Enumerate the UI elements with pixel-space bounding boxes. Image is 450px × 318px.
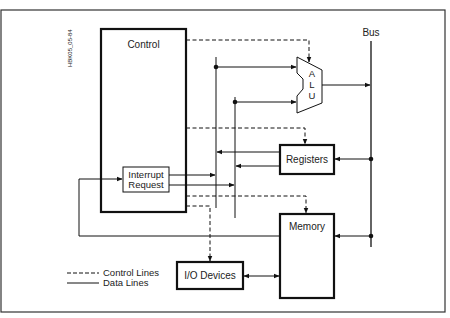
- alu-block: A L U: [297, 57, 322, 113]
- registers-block: Registers: [280, 145, 334, 174]
- memory-label: Memory: [289, 221, 325, 232]
- registers-label: Registers: [286, 154, 328, 165]
- alu-letter-u: U: [309, 90, 316, 101]
- interrupt-request-block: Interrupt Request: [123, 167, 169, 192]
- figure-id-label: HBK05_05-84: [67, 29, 73, 67]
- interrupt-label-line2: Request: [128, 179, 164, 190]
- io-devices-block: I/O Devices: [177, 262, 243, 289]
- alu-letter-a: A: [309, 68, 316, 79]
- legend: Control Lines Data Lines: [67, 267, 159, 288]
- control-label: Control: [127, 39, 159, 50]
- bus: Bus: [362, 27, 379, 247]
- alu-letter-l: L: [309, 79, 314, 90]
- memory-block: Memory: [280, 214, 334, 298]
- cpu-block-diagram: HBK05_05-84 Control Interrupt Request A …: [0, 0, 450, 318]
- bus-label: Bus: [362, 27, 379, 38]
- io-devices-label: I/O Devices: [184, 270, 236, 281]
- legend-data-lines-label: Data Lines: [103, 277, 149, 288]
